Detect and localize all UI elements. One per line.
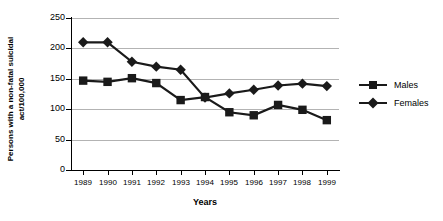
x-axis-tick bbox=[302, 170, 303, 175]
square-marker-icon bbox=[79, 76, 87, 84]
x-axis-tick-label: 1999 bbox=[312, 178, 342, 187]
x-axis-tick bbox=[278, 170, 279, 175]
x-axis-tick bbox=[327, 170, 328, 175]
legend-label-females: Females bbox=[394, 98, 429, 108]
chart-figure: Persons with a non-fatal suicidal act/10… bbox=[0, 0, 443, 221]
y-axis-tick-labels: 050100150200250 bbox=[33, 0, 65, 221]
x-axis-tick bbox=[181, 170, 182, 175]
y-axis-title-line-2: act/100,000 bbox=[16, 9, 27, 189]
series-line bbox=[83, 42, 327, 97]
x-axis-tick bbox=[108, 170, 109, 175]
x-axis-tick bbox=[229, 170, 230, 175]
y-axis-tick bbox=[66, 170, 71, 171]
x-axis-tick bbox=[205, 170, 206, 175]
series-layer bbox=[71, 18, 339, 170]
y-axis-tick-label: 250 bbox=[35, 13, 65, 22]
x-axis-tick bbox=[254, 170, 255, 175]
square-marker-icon bbox=[298, 106, 306, 114]
square-marker-icon bbox=[176, 96, 184, 104]
square-marker-icon bbox=[250, 111, 258, 119]
diamond-marker-icon bbox=[224, 88, 234, 98]
y-axis-tick-label: 50 bbox=[35, 135, 65, 144]
x-axis-tick bbox=[83, 170, 84, 175]
chart-legend: Males Females bbox=[358, 76, 443, 112]
y-axis-tick-label: 150 bbox=[35, 74, 65, 83]
x-axis-title: Years bbox=[71, 197, 339, 207]
square-marker-icon bbox=[358, 76, 388, 94]
y-axis-tick-label: 200 bbox=[35, 43, 65, 52]
x-axis-tick bbox=[156, 170, 157, 175]
y-axis-title-line-1: Persons with a non-fatal suicidal bbox=[5, 9, 16, 189]
square-marker-icon bbox=[225, 108, 233, 116]
diamond-marker-icon bbox=[78, 37, 88, 47]
square-marker-icon bbox=[152, 79, 160, 87]
legend-entry-males[interactable]: Males bbox=[358, 76, 443, 94]
diamond-marker-icon bbox=[273, 80, 283, 90]
square-marker-icon bbox=[323, 116, 331, 124]
y-axis-tick-label: 100 bbox=[35, 104, 65, 113]
legend-entry-females[interactable]: Females bbox=[358, 94, 443, 112]
x-axis-tick bbox=[132, 170, 133, 175]
y-axis-title: Persons with a non-fatal suicidal act/10… bbox=[5, 9, 27, 189]
series-females bbox=[78, 37, 332, 103]
diamond-marker-icon bbox=[249, 85, 259, 95]
legend-label-males: Males bbox=[394, 80, 418, 90]
y-axis-tick-label: 0 bbox=[35, 165, 65, 174]
square-marker-icon bbox=[103, 78, 111, 86]
square-marker-icon bbox=[274, 101, 282, 109]
diamond-marker-icon bbox=[358, 94, 388, 112]
diamond-marker-icon bbox=[297, 78, 307, 88]
diamond-marker-icon bbox=[322, 81, 332, 91]
diamond-marker-icon bbox=[151, 61, 161, 71]
square-marker-icon bbox=[128, 74, 136, 82]
